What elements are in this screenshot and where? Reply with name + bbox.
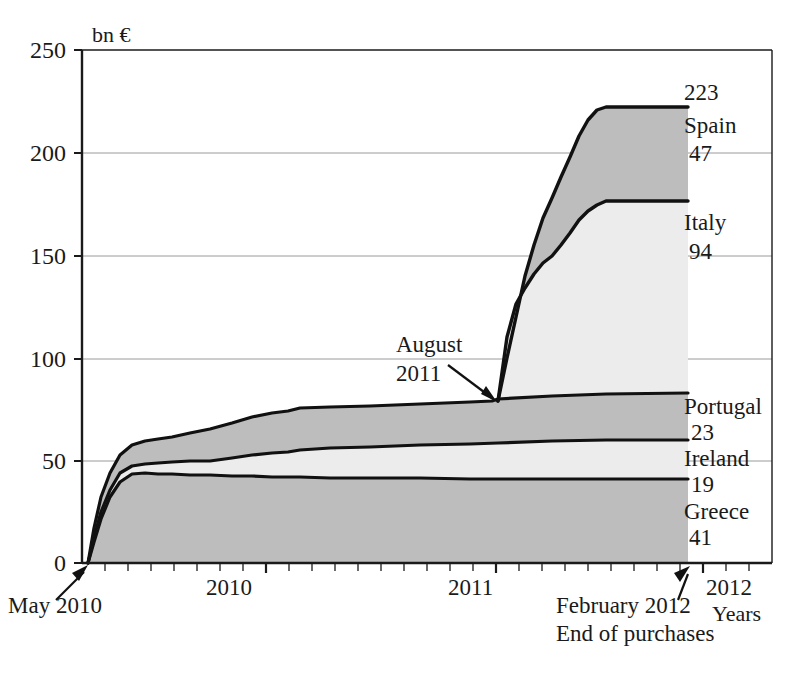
x-axis-name: Years: [712, 601, 761, 626]
total-value-label: 223: [684, 80, 719, 105]
annotation-february-line2: End of purchases: [556, 621, 714, 646]
x-tick-label-2012: 2012: [706, 575, 752, 600]
annotation-february-2012: February 2012 End of purchases: [556, 566, 714, 646]
chart-container: bn € 250 200 150 100 50 0 2010 2011 2012…: [0, 0, 798, 674]
series-label-portugal: Portugal: [684, 394, 762, 419]
y-tick-label-100: 100: [30, 346, 66, 372]
x-tick-label-2011: 2011: [448, 575, 493, 600]
x-tick-marks: [105, 563, 749, 573]
y-tick-label-250: 250: [30, 37, 66, 63]
y-axis-unit-label: bn €: [92, 22, 131, 47]
series-label-ireland: Ireland: [684, 446, 750, 471]
annotation-february-line1: February 2012: [556, 593, 691, 618]
series-value-ireland: 19: [691, 472, 714, 497]
stacked-area-chart: bn € 250 200 150 100 50 0 2010 2011 2012…: [0, 0, 798, 674]
series-label-spain: Spain: [684, 113, 737, 138]
annotation-may-arrow-head: [72, 565, 88, 581]
x-tick-label-2010: 2010: [206, 575, 252, 600]
series-label-italy: Italy: [684, 210, 727, 235]
annotation-august-line2: 2011: [396, 361, 441, 386]
series-label-greece: Greece: [684, 499, 749, 524]
series-value-portugal: 23: [691, 420, 714, 445]
series-value-greece: 41: [689, 525, 712, 550]
y-tick-label-200: 200: [30, 140, 66, 166]
series-value-spain: 47: [689, 141, 712, 166]
area-greece: [88, 473, 688, 563]
y-tick-label-50: 50: [42, 448, 66, 474]
y-tick-label-0: 0: [54, 550, 66, 576]
y-tick-label-150: 150: [30, 243, 66, 269]
annotation-august-line1: August: [396, 332, 463, 357]
annotation-may-2010-text: May 2010: [8, 593, 102, 618]
series-value-italy: 94: [689, 239, 713, 264]
